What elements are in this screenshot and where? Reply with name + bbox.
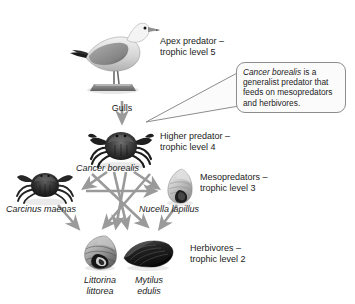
callout-cancer-borealis: Cancer borealis is a generalist predator… (236, 62, 346, 113)
food-web-diagram: Apex predator – trophic level 5 Gulls Hi… (0, 0, 355, 304)
callout-tail (146, 72, 239, 122)
callout-species: Cancer borealis (243, 67, 301, 77)
callout-pointer-layer (0, 0, 355, 304)
